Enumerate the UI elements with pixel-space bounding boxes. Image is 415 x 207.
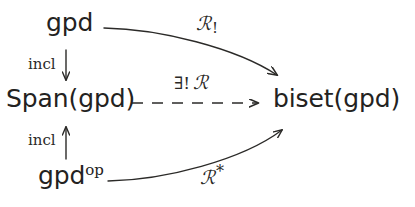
node-span-gpd: Span(gpd) (6, 86, 135, 111)
node-gpd-op-superscript: op (85, 161, 103, 179)
script-R-glyph: ℛ (200, 166, 215, 188)
edge-R-shriek-arrow (104, 28, 277, 75)
edge-label-exists-unique-R: ∃!ℛ (174, 73, 208, 92)
edge-label-R-star: ℛ* (200, 168, 224, 187)
edge-label-incl-down: incl (28, 55, 56, 73)
script-R-glyph: ℛ (196, 12, 211, 34)
exists-unique-quantifier: ∃! (174, 73, 190, 93)
edge-R-star-arrow (108, 130, 282, 181)
node-biset-gpd: biset(gpd) (273, 86, 400, 111)
script-R-glyph: ℛ (193, 71, 208, 93)
node-gpd-op: gpdop (38, 163, 104, 188)
edge-label-incl-up: incl (28, 131, 56, 149)
node-gpd: gpd (46, 10, 93, 35)
star-superscript: * (216, 162, 224, 181)
edge-label-R-shriek: ℛ! (196, 14, 218, 36)
node-gpd-op-base: gpd (38, 161, 85, 190)
commutative-diagram: gpd Span(gpd) gpdop biset(gpd) incl incl… (0, 0, 415, 207)
shriek-subscript: ! (212, 19, 218, 37)
